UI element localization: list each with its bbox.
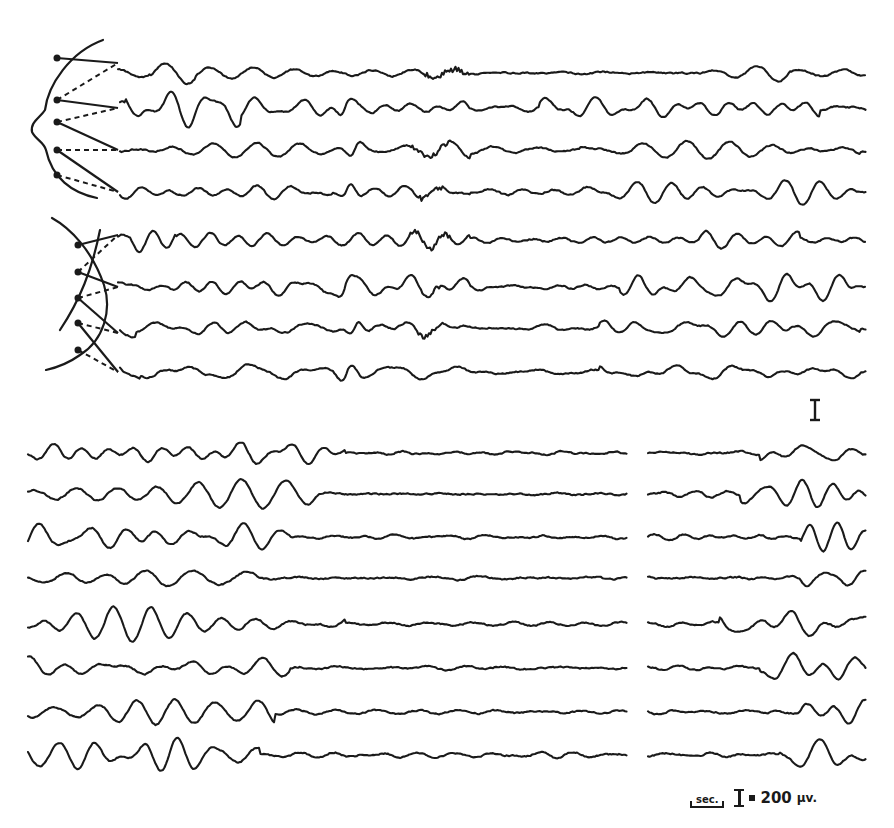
eeg-channel-trace — [118, 274, 865, 301]
lower-head-montage-diagram — [46, 218, 118, 372]
eeg-channel-trace — [120, 141, 866, 159]
eeg-channel-trace — [118, 230, 865, 252]
eeg-traces-canvas — [0, 0, 894, 828]
amplitude-scale: 200 µv. — [734, 789, 817, 807]
bottom-section-traces — [28, 443, 866, 771]
eeg-channel-trace — [120, 364, 866, 380]
eeg-channel-trace — [648, 571, 866, 587]
eeg-channel-trace — [28, 699, 627, 725]
eeg-channel-trace — [120, 92, 866, 128]
time-scale-bar: sec. — [690, 788, 724, 808]
eeg-channel-trace — [648, 653, 866, 680]
calibration-mark — [810, 400, 820, 420]
equals-dot-icon — [749, 795, 755, 801]
eeg-channel-trace — [28, 606, 627, 642]
eeg-channel-trace — [648, 611, 866, 636]
eeg-channel-trace — [648, 480, 866, 507]
upper-head-montage-diagram — [32, 40, 118, 198]
eeg-channel-trace — [120, 180, 866, 204]
time-scale-label: sec. — [696, 794, 718, 806]
amplitude-unit: µv. — [797, 791, 817, 805]
eeg-channel-trace — [28, 479, 627, 509]
amplitude-bar-icon — [734, 789, 744, 807]
scale-legend: sec. 200 µv. — [690, 786, 817, 810]
eeg-channel-trace — [648, 523, 866, 552]
eeg-channel-trace — [28, 656, 627, 676]
eeg-figure — [0, 0, 894, 828]
eeg-channel-trace — [648, 445, 866, 460]
eeg-channel-trace — [28, 738, 627, 771]
top-section-traces — [118, 64, 866, 381]
eeg-channel-trace — [118, 64, 865, 85]
amplitude-value: 200 — [760, 789, 791, 807]
eeg-channel-trace — [120, 320, 866, 338]
eeg-channel-trace — [648, 739, 866, 766]
eeg-channel-trace — [648, 700, 866, 724]
eeg-channel-trace — [28, 571, 627, 587]
eeg-channel-trace — [28, 523, 627, 549]
eeg-channel-trace — [28, 443, 627, 464]
